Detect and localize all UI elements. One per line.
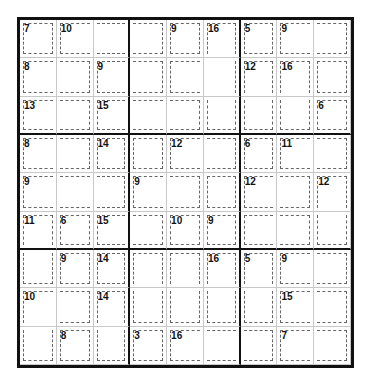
cage-sum-label: 16 bbox=[208, 254, 220, 264]
cell-r7-c1[interactable] bbox=[20, 250, 57, 288]
cage-outline bbox=[60, 138, 90, 169]
cage-sum-label: 3 bbox=[134, 331, 141, 341]
cage-outline bbox=[207, 330, 236, 361]
cell-r4-c3[interactable]: 14 bbox=[94, 135, 131, 173]
cell-r7-c8[interactable]: 9 bbox=[277, 250, 314, 288]
cell-r8-c2[interactable] bbox=[57, 288, 94, 326]
cell-r1-c5[interactable]: 9 bbox=[167, 20, 204, 58]
cell-r1-c3[interactable] bbox=[94, 20, 131, 58]
cell-r4-c8[interactable]: 11 bbox=[277, 135, 314, 173]
cage-outline bbox=[133, 215, 163, 245]
cell-r8-c7[interactable] bbox=[241, 288, 278, 326]
cell-r3-c8[interactable] bbox=[277, 97, 314, 135]
cell-r5-c2[interactable] bbox=[57, 173, 94, 211]
cell-r8-c6[interactable] bbox=[204, 288, 241, 326]
cage-sum-label: 9 bbox=[281, 254, 288, 264]
cell-r2-c5[interactable] bbox=[167, 58, 204, 96]
cage-sum-label: 8 bbox=[24, 62, 31, 72]
cell-r9-c8[interactable]: 7 bbox=[277, 327, 314, 365]
cell-r5-c4[interactable]: 9 bbox=[130, 173, 167, 211]
cell-r2-c3[interactable]: 9 bbox=[94, 58, 131, 96]
cell-r8-c3[interactable]: 14 bbox=[94, 288, 131, 326]
cell-r7-c7[interactable]: 5 bbox=[241, 250, 278, 288]
cell-r9-c7[interactable] bbox=[241, 327, 278, 365]
cell-r4-c6[interactable] bbox=[204, 135, 241, 173]
cage-sum-label: 5 bbox=[245, 254, 252, 264]
cell-r9-c5[interactable]: 16 bbox=[167, 327, 204, 365]
cell-r3-c4[interactable] bbox=[130, 97, 167, 135]
cell-r3-c7[interactable] bbox=[241, 97, 278, 135]
cell-r8-c1[interactable]: 10 bbox=[20, 288, 57, 326]
cell-r4-c9[interactable] bbox=[314, 135, 351, 173]
cell-r3-c9[interactable]: 6 bbox=[314, 97, 351, 135]
cell-r9-c4[interactable]: 3 bbox=[130, 327, 167, 365]
cell-r4-c4[interactable] bbox=[130, 135, 167, 173]
cage-sum-label: 11 bbox=[281, 139, 293, 149]
cell-r4-c2[interactable] bbox=[57, 135, 94, 173]
cage-outline bbox=[97, 330, 126, 361]
cell-r3-c3[interactable]: 15 bbox=[94, 97, 131, 135]
cell-r8-c5[interactable] bbox=[167, 288, 204, 326]
cell-r2-c4[interactable] bbox=[130, 58, 167, 96]
cage-sum-label: 7 bbox=[24, 24, 31, 34]
cell-r6-c3[interactable]: 15 bbox=[94, 212, 131, 250]
cell-r7-c2[interactable]: 9 bbox=[57, 250, 94, 288]
cell-r8-c4[interactable] bbox=[130, 288, 167, 326]
cell-r3-c1[interactable]: 13 bbox=[20, 97, 57, 135]
cell-r6-c9[interactable] bbox=[314, 212, 351, 250]
cell-r6-c6[interactable]: 9 bbox=[204, 212, 241, 250]
cell-r6-c1[interactable]: 11 bbox=[20, 212, 57, 250]
cell-r5-c7[interactable]: 12 bbox=[241, 173, 278, 211]
cage-outline bbox=[317, 138, 347, 169]
cell-r3-c2[interactable] bbox=[57, 97, 94, 135]
cell-r4-c5[interactable]: 12 bbox=[167, 135, 204, 173]
cell-r6-c5[interactable]: 10 bbox=[167, 212, 204, 250]
cell-r4-c1[interactable]: 8 bbox=[20, 135, 57, 173]
cell-r3-c5[interactable] bbox=[167, 97, 204, 135]
cell-r9-c9[interactable] bbox=[314, 327, 351, 365]
cell-r5-c6[interactable] bbox=[204, 173, 241, 211]
cell-r2-c9[interactable] bbox=[314, 58, 351, 96]
cell-r9-c3[interactable] bbox=[94, 327, 131, 365]
cell-r1-c4[interactable] bbox=[130, 20, 167, 58]
cell-r2-c2[interactable] bbox=[57, 58, 94, 96]
cell-r5-c5[interactable] bbox=[167, 173, 204, 211]
cell-r1-c7[interactable]: 5 bbox=[241, 20, 278, 58]
cell-r4-c7[interactable]: 6 bbox=[241, 135, 278, 173]
cage-outline bbox=[97, 23, 126, 54]
cage-outline bbox=[133, 291, 163, 322]
cell-r5-c9[interactable]: 12 bbox=[314, 173, 351, 211]
cell-r6-c2[interactable]: 6 bbox=[57, 212, 94, 250]
cell-r2-c6[interactable] bbox=[204, 58, 241, 96]
cell-r9-c6[interactable] bbox=[204, 327, 241, 365]
cell-r9-c1[interactable] bbox=[20, 327, 57, 365]
cage-outline bbox=[133, 253, 163, 284]
cell-r6-c8[interactable] bbox=[277, 212, 314, 250]
cell-r2-c1[interactable]: 8 bbox=[20, 58, 57, 96]
cage-outline bbox=[207, 138, 236, 169]
cell-r7-c9[interactable] bbox=[314, 250, 351, 288]
cell-r1-c1[interactable]: 7 bbox=[20, 20, 57, 58]
cell-r5-c3[interactable] bbox=[94, 173, 131, 211]
cell-r6-c7[interactable] bbox=[241, 212, 278, 250]
cell-r7-c4[interactable] bbox=[130, 250, 167, 288]
cell-r5-c1[interactable]: 9 bbox=[20, 173, 57, 211]
cell-r1-c8[interactable]: 9 bbox=[277, 20, 314, 58]
cell-r3-c6[interactable] bbox=[204, 97, 241, 135]
cell-r5-c8[interactable] bbox=[277, 173, 314, 211]
cell-r7-c3[interactable]: 14 bbox=[94, 250, 131, 288]
cell-r2-c8[interactable]: 16 bbox=[277, 58, 314, 96]
cell-r8-c8[interactable]: 15 bbox=[277, 288, 314, 326]
cell-r6-c4[interactable] bbox=[130, 212, 167, 250]
cell-r1-c9[interactable] bbox=[314, 20, 351, 58]
cell-r1-c6[interactable]: 16 bbox=[204, 20, 241, 58]
cage-outline bbox=[244, 291, 274, 322]
cell-r1-c2[interactable]: 10 bbox=[57, 20, 94, 58]
cage-sum-label: 14 bbox=[98, 254, 110, 264]
cell-r2-c7[interactable]: 12 bbox=[241, 58, 278, 96]
cage-sum-label: 10 bbox=[61, 24, 73, 34]
cell-r8-c9[interactable] bbox=[314, 288, 351, 326]
cell-r9-c2[interactable]: 8 bbox=[57, 327, 94, 365]
cell-r7-c6[interactable]: 16 bbox=[204, 250, 241, 288]
cell-r7-c5[interactable] bbox=[167, 250, 204, 288]
